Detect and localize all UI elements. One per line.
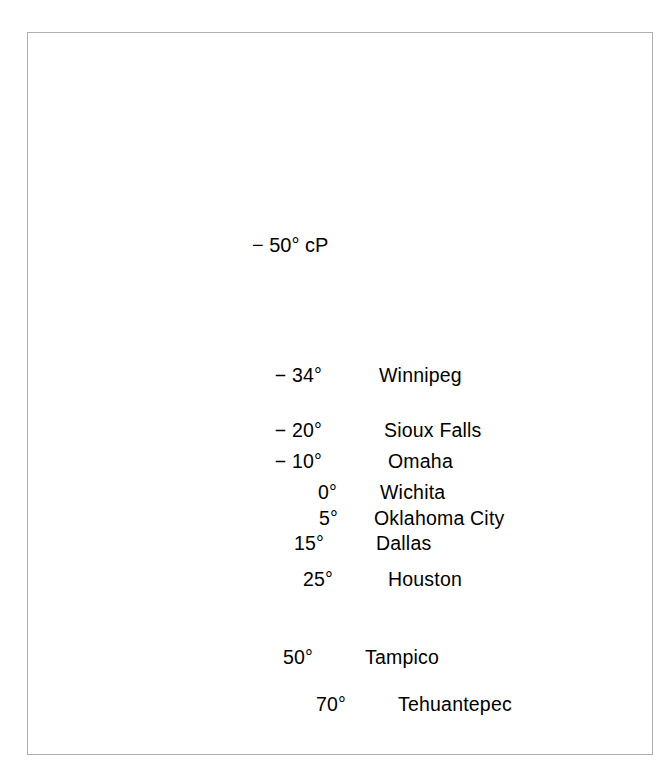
station-city-houston: Houston bbox=[388, 570, 462, 590]
station-temperature-sioux-falls: − 20° bbox=[275, 421, 322, 441]
station-city-winnipeg: Winnipeg bbox=[379, 366, 462, 386]
station-temperature-winnipeg: − 34° bbox=[275, 366, 322, 386]
station-temperature-dallas: 15° bbox=[294, 534, 324, 554]
station-temperature-tehuantepec: 70° bbox=[316, 695, 346, 715]
station-city-oklahoma-city: Oklahoma City bbox=[374, 509, 504, 529]
station-city-tehuantepec: Tehuantepec bbox=[398, 695, 512, 715]
station-city-sioux-falls: Sioux Falls bbox=[384, 421, 482, 441]
station-city-omaha: Omaha bbox=[388, 452, 453, 472]
station-city-wichita: Wichita bbox=[380, 483, 445, 503]
station-temperature-oklahoma-city: 5° bbox=[319, 509, 338, 529]
air-mass-source-label: − 50° cP bbox=[252, 234, 328, 257]
station-temperature-wichita: 0° bbox=[318, 483, 337, 503]
figure-canvas: − 50° cP − 34°Winnipeg− 20°Sioux Falls− … bbox=[0, 0, 672, 775]
station-temperature-houston: 25° bbox=[303, 570, 333, 590]
station-city-dallas: Dallas bbox=[376, 534, 431, 554]
station-city-tampico: Tampico bbox=[365, 648, 439, 668]
station-temperature-tampico: 50° bbox=[283, 648, 313, 668]
station-temperature-omaha: − 10° bbox=[275, 452, 322, 472]
figure-border bbox=[27, 32, 653, 755]
